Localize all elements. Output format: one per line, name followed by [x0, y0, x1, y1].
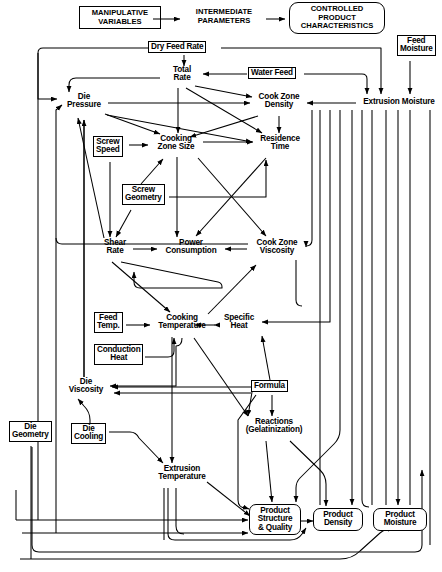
- edge-cookzonedensity-cookingzonesize: [190, 116, 258, 137]
- node-label-line2: Moisture: [377, 519, 423, 527]
- edge-formula-productstructure: [238, 395, 256, 509]
- node-label-line2: Cooling: [74, 433, 103, 441]
- node-label: Extrusion Moisture: [356, 98, 442, 106]
- edge-totalrate-cookzonedensity: [195, 86, 252, 97]
- bus-extemp-b: [176, 488, 184, 534]
- node-power-consumption[interactable]: Power Consumption: [158, 239, 224, 256]
- edge-diepressure-cookingzonesize: [105, 114, 160, 134]
- node-cooking-zone-size[interactable]: Cooking Zone Size: [149, 135, 203, 152]
- node-label: Water Feed: [251, 69, 293, 77]
- edge-extrusiontemperature-productstructure: [207, 482, 250, 516]
- node-feed-temp[interactable]: Feed Temp.: [94, 312, 123, 333]
- node-screw-geometry[interactable]: Screw Geometry: [122, 184, 165, 205]
- edge-totalrate-diepressure: [69, 78, 160, 92]
- node-label-line2: Temp.: [97, 322, 120, 330]
- node-label: Formula: [254, 382, 285, 390]
- node-label-line2: Zone Size: [149, 143, 203, 151]
- edge-reactions-productdensity: [290, 441, 326, 506]
- node-formula[interactable]: Formula: [251, 380, 288, 392]
- node-label-line2: Geometry: [12, 431, 49, 439]
- node-label-line2: Heat: [97, 354, 140, 362]
- edge-screwgeometry-shearrate: [116, 210, 131, 237]
- node-die-cooling[interactable]: Die Cooling: [71, 423, 106, 444]
- node-product-density[interactable]: Product Density: [313, 508, 363, 531]
- edge-extrusionmoisture-reactions-route: [296, 110, 340, 502]
- node-water-feed[interactable]: Water Feed: [248, 67, 296, 79]
- node-die-viscosity[interactable]: Die Viscosity: [60, 378, 112, 395]
- node-extrusion-moisture[interactable]: Extrusion Moisture: [356, 98, 442, 106]
- node-conduction-heat[interactable]: Conduction Heat: [94, 344, 143, 365]
- edge-formula-specificheat: [262, 336, 270, 380]
- bus-em-2: [362, 110, 369, 507]
- node-feed-moisture[interactable]: Feed Moisture: [397, 35, 436, 56]
- node-cooking-temperature[interactable]: Cooking Temperature: [150, 314, 214, 331]
- node-label-line2: Rate: [160, 74, 204, 82]
- node-product-moisture[interactable]: Product Moisture: [373, 508, 427, 531]
- edge-cookingtemperature-reactions: [194, 338, 248, 416]
- edge-waterfeed-extrusionmoisture: [304, 74, 367, 94]
- node-label: Dry Feed Rate: [151, 43, 203, 51]
- node-screw-speed[interactable]: Screw Speed: [93, 136, 123, 157]
- node-label-line2: Temperature: [150, 322, 214, 330]
- edge-shearrate-cookingtemperature: [112, 262, 170, 312]
- edge-diecooling-extrusiontemperature: [109, 432, 163, 463]
- node-label-line2: Speed: [96, 146, 120, 154]
- diagram-canvas: MANIPULATIVE VARIABLES INTERMEDIATE PARA…: [0, 0, 442, 572]
- node-label-line2: Rate: [95, 247, 135, 255]
- node-label-line2: Geometry: [125, 194, 162, 202]
- edge-reactions-productstructure: [266, 441, 272, 502]
- edge-dryfeed-diepressure: [38, 48, 148, 99]
- node-label-line2: (Gelatinization): [238, 426, 310, 434]
- node-die-geometry[interactable]: Die Geometry: [9, 421, 52, 442]
- edge-screwgeometry-cookingzonesize: [141, 159, 163, 184]
- edge-cookzoneviscosity-diepressure: [56, 105, 248, 244]
- node-label-line2: Consumption: [158, 247, 224, 255]
- edge-cookingtemperature-cookzoneviscosity: [208, 265, 256, 314]
- edge-conductionheat-cookingtemperature: [145, 338, 174, 357]
- node-cook-zone-viscosity[interactable]: Cook Zone Viscosity: [248, 239, 306, 256]
- node-total-rate[interactable]: Total Rate: [160, 66, 204, 83]
- node-extrusion-temperature[interactable]: Extrusion Temperature: [150, 465, 214, 482]
- edge-extrusionmoisture-cookzoneviscosity: [306, 110, 312, 247]
- edge-diegeometry-bottomwrap: [32, 447, 422, 552]
- node-shear-rate[interactable]: Shear Rate: [95, 239, 135, 256]
- node-residence-time[interactable]: Residence Time: [254, 135, 306, 152]
- node-label-line2: Moisture: [400, 45, 433, 53]
- node-product-structure-quality[interactable]: Product Structure & Quality: [249, 504, 301, 535]
- edge-screwgeometry-residencetime: [169, 160, 266, 197]
- node-label-line2: Density: [251, 101, 307, 109]
- node-label-line3: & Quality: [253, 524, 297, 532]
- node-dry-feed-rate[interactable]: Dry Feed Rate: [148, 41, 206, 53]
- diagram-connectors: [0, 0, 442, 572]
- node-label-line2: Viscosity: [248, 247, 306, 255]
- node-label-line2: Density: [317, 519, 359, 527]
- node-label-line2: Time: [254, 143, 306, 151]
- edge-dryfeed-extrusionmoisture: [221, 48, 381, 94]
- node-label-line2: Pressure: [59, 101, 109, 109]
- node-label-line2: Temperature: [150, 473, 214, 481]
- bus-cookzone-visc-tail: [296, 260, 302, 306]
- node-specific-heat[interactable]: Specific Heat: [216, 314, 262, 331]
- edge-shearrate-cookzoneviscosity-route: [121, 262, 222, 288]
- node-label-line2: Heat: [216, 322, 262, 330]
- node-label-line2: Viscosity: [60, 386, 112, 394]
- node-cook-zone-density[interactable]: Cook Zone Density: [251, 93, 307, 110]
- node-reactions-gelatinization[interactable]: Reactions (Gelatinization): [238, 418, 310, 435]
- node-die-pressure[interactable]: Die Pressure: [59, 93, 109, 110]
